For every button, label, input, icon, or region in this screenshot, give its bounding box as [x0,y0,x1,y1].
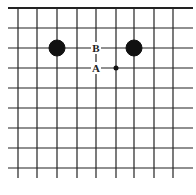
point-marker-dot [114,66,119,71]
point-label-b: B [92,42,100,54]
black-stone[interactable] [126,40,142,56]
board-grid [8,8,193,178]
go-board: BA [0,0,196,195]
point-label-a: A [92,62,100,74]
black-stone[interactable] [49,40,65,56]
